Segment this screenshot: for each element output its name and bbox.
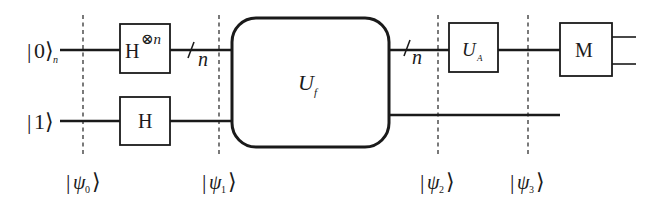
state-label-psi0: | ψ 0 ⟩	[66, 169, 101, 195]
h-label: H	[138, 110, 152, 132]
ket-angle: ⟩	[446, 169, 455, 194]
bus-slash-icon	[404, 40, 410, 56]
h-tensor-label: H	[125, 40, 139, 62]
ket-value: 0	[34, 38, 45, 63]
ket-subscript: n	[53, 54, 58, 65]
psi-index: 1	[221, 184, 226, 195]
quantum-circuit: | 0 ⟩ n | 1 ⟩ H ⊗n H n n U f U A M | ψ 0…	[0, 0, 663, 212]
ket-bar: |	[27, 38, 31, 63]
ket-value: 1	[34, 109, 45, 134]
psi-index: 3	[529, 184, 534, 195]
ket-bar: |	[202, 169, 206, 194]
input-ket-bottom: | 1 ⟩	[27, 109, 54, 134]
ket-angle: ⟩	[536, 169, 545, 194]
ket-bar: |	[420, 169, 424, 194]
ket-angle: ⟩	[92, 169, 101, 194]
ua-subscript: A	[476, 53, 483, 63]
h-tensor-superscript: ⊗n	[141, 31, 161, 47]
state-label-psi3: | ψ 3 ⟩	[510, 169, 545, 195]
ket-bar: |	[510, 169, 514, 194]
psi-index: 0	[85, 184, 90, 195]
psi-index: 2	[439, 184, 444, 195]
measure-label: M	[575, 39, 593, 61]
ket-bar: |	[27, 109, 31, 134]
state-label-psi2: | ψ 2 ⟩	[420, 169, 455, 195]
ua-label: U	[462, 39, 477, 60]
state-label-psi1: | ψ 1 ⟩	[202, 169, 237, 195]
ket-angle: ⟩	[228, 169, 237, 194]
ket-bar: |	[66, 169, 70, 194]
bus-width-label: n	[412, 46, 422, 68]
bus-width-label: n	[198, 48, 208, 70]
input-ket-top: | 0 ⟩ n	[27, 38, 58, 65]
ket-angle: ⟩	[45, 109, 54, 134]
